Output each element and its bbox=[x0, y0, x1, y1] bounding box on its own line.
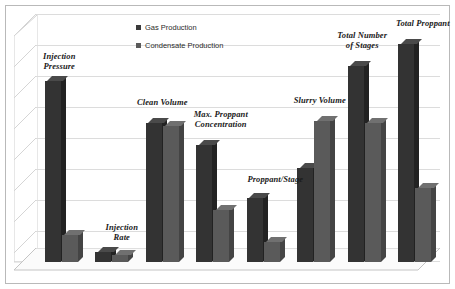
chart-legend: Gas Production Condensate Production bbox=[136, 21, 223, 57]
plot-floor bbox=[13, 248, 443, 278]
legend-label: Gas Production bbox=[145, 23, 197, 32]
category-label: Injection Rate bbox=[81, 222, 163, 242]
category-label: Clean Volume bbox=[121, 97, 203, 107]
legend-item-condensate-production[interactable]: Condensate Production bbox=[136, 39, 223, 52]
category-label: Proppant/Stage bbox=[234, 174, 316, 184]
category-label: Injection Pressure bbox=[18, 51, 100, 71]
category-label: Max. Proppant Concentration bbox=[180, 109, 262, 129]
category-label: Total Number of Stages bbox=[321, 30, 403, 50]
legend-swatch-icon bbox=[136, 25, 141, 30]
legend-item-gas-production[interactable]: Gas Production bbox=[136, 21, 223, 34]
category-label: Total Proppant bbox=[382, 18, 455, 28]
legend-label: Condensate Production bbox=[145, 41, 223, 50]
legend-swatch-icon bbox=[136, 43, 141, 48]
category-label: Slurry Volume bbox=[279, 95, 361, 105]
chart-root: Injection PressureInjection RateClean Vo… bbox=[0, 0, 455, 289]
